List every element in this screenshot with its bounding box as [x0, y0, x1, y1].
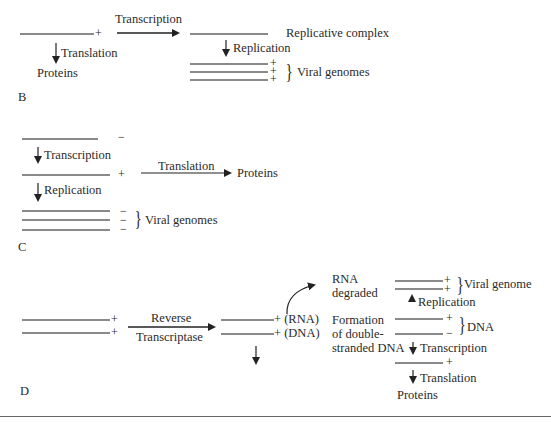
translation-label: Translation — [61, 46, 118, 60]
mrna-strand — [395, 362, 443, 364]
formation-label: stranded DNA — [332, 341, 405, 355]
rna-degraded-label: degraded — [332, 286, 378, 300]
brace: } — [135, 207, 142, 229]
strand-sign: − — [118, 131, 125, 143]
strand-sign: + — [111, 326, 118, 338]
viral-genome-strand — [395, 280, 443, 282]
genome-sign: + — [270, 73, 277, 85]
viral-genome-label: Viral genome — [464, 277, 532, 291]
replication-label: Replication — [418, 295, 476, 309]
rna-degraded-label: RNA — [332, 272, 358, 286]
panel-label: C — [18, 240, 26, 255]
translation-label: Translation — [420, 371, 477, 385]
dna-minus-strand — [395, 333, 443, 335]
rna-strand — [22, 332, 110, 334]
rna-strand — [22, 319, 110, 321]
replicative-complex-strand — [190, 33, 268, 35]
dna-plus-strand — [395, 318, 443, 320]
translation-label: Translation — [158, 159, 215, 173]
hybrid-rna-strand — [221, 319, 274, 321]
hybrid-dna-strand — [221, 333, 274, 335]
genome-strand — [22, 219, 110, 221]
reverse-label: Reverse — [151, 311, 191, 325]
genome-strand — [190, 79, 268, 81]
proteins-label: Proteins — [397, 388, 438, 402]
plus-strand — [22, 174, 110, 176]
genome-strand — [22, 229, 110, 231]
transcription-label: Transcription — [44, 148, 111, 162]
rna-strand — [20, 33, 94, 35]
hybrid-dna-label: + (DNA) — [274, 326, 320, 340]
panel-label: D — [20, 384, 29, 399]
replication-label: Replication — [44, 183, 102, 197]
mrna-sign: + — [446, 356, 453, 368]
panel-label: B — [18, 90, 26, 105]
formation-label: Formation — [332, 313, 384, 327]
strand-sign: + — [95, 27, 102, 39]
dna-sign: − — [446, 327, 453, 339]
rna-degraded-arrow-icon — [287, 285, 314, 314]
bottom-divider — [0, 416, 551, 417]
replication-label: Replication — [233, 41, 291, 55]
replicative-complex-label: Replicative complex — [286, 26, 389, 40]
minus-strand — [22, 138, 98, 140]
proteins-label: Proteins — [237, 166, 278, 180]
brace: } — [457, 273, 464, 295]
proteins-label: Proteins — [37, 66, 78, 80]
genome-sign: − — [120, 223, 127, 235]
genome-strand — [22, 210, 110, 212]
genome-sign: + — [444, 283, 451, 295]
viral-genomes-label: Viral genomes — [145, 213, 218, 227]
strand-sign: + — [118, 168, 125, 180]
brace: } — [286, 60, 293, 82]
genome-strand — [190, 71, 268, 73]
viral-genome-strand — [395, 288, 443, 290]
dna-sign: + — [446, 312, 453, 324]
genome-strand — [190, 63, 268, 65]
strand-sign: + — [111, 313, 118, 325]
formation-label: of double- — [332, 327, 384, 341]
viral-genomes-label: Viral genomes — [297, 65, 370, 79]
brace: } — [459, 313, 466, 335]
hybrid-rna-label: + (RNA) — [274, 312, 319, 326]
dna-label: DNA — [467, 320, 494, 334]
transcription-label: Transcription — [420, 341, 487, 355]
transcriptase-label: Transcriptase — [136, 330, 203, 344]
transcription-label: Transcription — [115, 12, 182, 26]
